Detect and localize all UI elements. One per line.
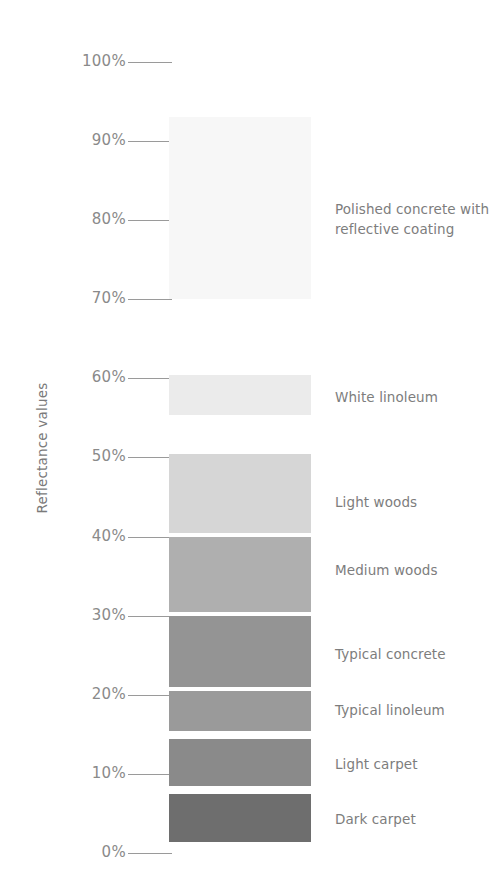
axis-tick-label-30: 30% bbox=[92, 608, 126, 624]
axis-tick-line-100 bbox=[128, 62, 172, 63]
axis-tick-label-80: 80% bbox=[92, 212, 126, 228]
bar-light-woods bbox=[169, 454, 311, 533]
bar-medium-woods bbox=[169, 537, 311, 612]
bar-label-light-carpet: Light carpet bbox=[335, 755, 495, 775]
bar-label-medium-woods: Medium woods bbox=[335, 561, 495, 581]
bar-typical-concrete bbox=[169, 616, 311, 687]
bar-label-typical-concrete: Typical concrete bbox=[335, 645, 495, 665]
axis-tick-line-60 bbox=[128, 378, 172, 379]
axis-tick-label-40: 40% bbox=[92, 529, 126, 545]
axis-tick-line-70 bbox=[128, 299, 172, 300]
axis-tick-line-20 bbox=[128, 695, 172, 696]
bar-polished-concrete bbox=[169, 117, 311, 299]
axis-tick-line-90 bbox=[128, 141, 172, 142]
bar-label-polished-concrete-line2: reflective coating bbox=[335, 221, 454, 237]
axis-tick-label-70: 70% bbox=[92, 291, 126, 307]
bar-typical-linoleum bbox=[169, 691, 311, 731]
bar-dark-carpet bbox=[169, 794, 311, 842]
axis-tick-label-0: 0% bbox=[102, 845, 126, 861]
axis-tick-label-90: 90% bbox=[92, 133, 126, 149]
axis-tick-label-10: 10% bbox=[92, 766, 126, 782]
bar-label-dark-carpet: Dark carpet bbox=[335, 810, 495, 830]
bar-light-carpet bbox=[169, 739, 311, 786]
axis-tick-line-40 bbox=[128, 537, 172, 538]
axis-tick-label-20: 20% bbox=[92, 687, 126, 703]
y-axis-title: Reflectance values bbox=[34, 348, 50, 548]
bar-label-polished-concrete: Polished concrete with reflective coatin… bbox=[335, 200, 495, 239]
axis-tick-line-80 bbox=[128, 220, 172, 221]
bar-label-light-woods: Light woods bbox=[335, 493, 495, 513]
axis-tick-line-30 bbox=[128, 616, 172, 617]
axis-tick-label-60: 60% bbox=[92, 370, 126, 386]
axis-tick-line-0 bbox=[128, 853, 172, 854]
axis-tick-line-50 bbox=[128, 457, 172, 458]
bar-label-white-linoleum: White linoleum bbox=[335, 388, 495, 408]
axis-tick-label-100: 100% bbox=[82, 54, 126, 70]
bar-label-polished-concrete-line1: Polished concrete with bbox=[335, 201, 489, 217]
bar-white-linoleum bbox=[169, 375, 311, 415]
bar-label-typical-linoleum: Typical linoleum bbox=[335, 701, 495, 721]
reflectance-chart: Reflectance values 100% 90% 80% 70% 60% … bbox=[0, 0, 495, 895]
axis-tick-line-10 bbox=[128, 774, 172, 775]
axis-tick-label-50: 50% bbox=[92, 449, 126, 465]
